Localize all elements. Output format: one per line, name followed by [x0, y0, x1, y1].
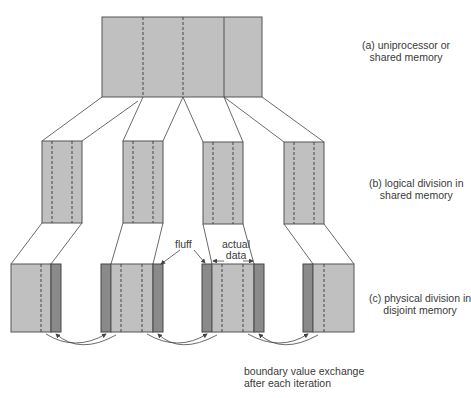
label-exchange: boundary value exchange after each itera… — [244, 365, 364, 389]
funnel-lines-top — [42, 97, 324, 142]
label-b-line1: (b) logical division in — [369, 177, 464, 189]
boundary-exchange-arrows — [46, 334, 318, 345]
label-a-line2: shared memory — [362, 51, 450, 63]
label-b-line2: shared memory — [369, 189, 464, 201]
label-exchange-line1: boundary value exchange — [244, 365, 364, 377]
top-block-uniprocessor — [102, 17, 262, 97]
label-a-line1: (a) uniprocessor or — [362, 39, 450, 51]
label-actual-line2: data — [222, 250, 250, 261]
label-c-line2: disjoint memory — [369, 304, 471, 316]
bottom-blocks-physical — [11, 264, 354, 332]
label-c-line1: (c) physical division in — [369, 292, 471, 304]
label-exchange-line2: after each iteration — [244, 377, 364, 389]
label-b: (b) logical division in shared memory — [369, 177, 464, 201]
label-fluff: fluff — [175, 238, 192, 250]
label-a: (a) uniprocessor or shared memory — [362, 39, 450, 63]
label-actual-data: actual data — [222, 239, 250, 261]
label-c: (c) physical division in disjoint memory — [369, 292, 471, 316]
middle-blocks-logical — [42, 141, 324, 224]
